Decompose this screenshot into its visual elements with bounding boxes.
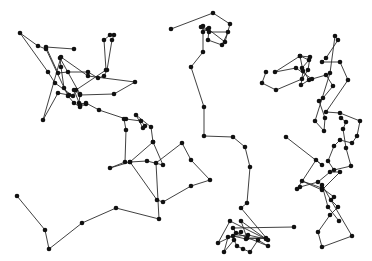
node-dot: [84, 101, 89, 106]
node-dot: [202, 105, 207, 110]
node-dot: [56, 71, 61, 76]
node-dot: [216, 241, 221, 246]
node-dot: [124, 128, 129, 133]
node-dot: [358, 119, 363, 124]
node-dot: [246, 233, 251, 238]
node-dot: [321, 96, 326, 101]
node-dot: [350, 141, 355, 146]
node-dot: [128, 160, 133, 165]
node-dot: [222, 250, 227, 255]
node-dot: [151, 140, 156, 145]
node-dot: [71, 94, 76, 99]
node-dot: [80, 221, 85, 226]
node-dot: [316, 180, 321, 185]
node-dot: [329, 198, 334, 203]
node-dot: [306, 68, 311, 73]
node-dot: [189, 184, 194, 189]
node-dot: [18, 31, 23, 36]
node-dot: [349, 164, 354, 169]
node-dot: [62, 86, 67, 91]
node-dot: [316, 230, 321, 235]
node-dot: [324, 56, 329, 61]
node-dot: [337, 219, 342, 224]
node-dot: [231, 226, 236, 231]
node-dot: [66, 70, 71, 75]
path-edges: [20, 33, 153, 168]
node-dot: [234, 231, 239, 236]
node-dot: [112, 92, 117, 97]
node-dot: [338, 138, 343, 143]
path-right-lower: [284, 135, 355, 250]
node-dot: [344, 120, 349, 125]
node-dot: [189, 158, 194, 163]
node-dot: [235, 244, 240, 249]
node-dot: [169, 27, 174, 32]
node-dot: [298, 185, 303, 190]
node-dot: [317, 99, 322, 104]
node-dot: [326, 205, 331, 210]
node-dot: [333, 34, 338, 39]
node-dot: [241, 247, 246, 252]
node-dot: [41, 118, 46, 123]
node-dot: [264, 70, 269, 75]
node-dot: [149, 125, 154, 130]
node-dot: [320, 60, 325, 65]
node-dot: [226, 235, 231, 240]
node-dot: [300, 77, 305, 82]
node-dot: [310, 77, 315, 82]
node-dot: [123, 160, 128, 165]
node-dot: [96, 76, 101, 81]
node-dot: [336, 205, 341, 210]
node-dot: [201, 24, 206, 29]
node-dot: [338, 170, 343, 175]
node-dot: [134, 113, 139, 118]
node-dot: [161, 163, 166, 168]
node-dot: [112, 33, 117, 38]
node-dot: [201, 30, 206, 35]
node-dot: [59, 65, 64, 70]
node-dot: [294, 66, 299, 71]
node-dot: [284, 135, 289, 140]
node-dot: [322, 129, 327, 134]
node-dot: [53, 81, 58, 86]
node-dot: [298, 54, 303, 59]
node-dot: [102, 38, 107, 43]
node-dot: [59, 55, 64, 60]
node-dot: [157, 217, 162, 222]
node-dot: [220, 43, 225, 48]
path-edges: [17, 142, 210, 249]
path-right-cluster: [260, 34, 363, 173]
node-dot: [328, 170, 333, 175]
node-dot: [243, 145, 248, 150]
node-dot: [189, 65, 194, 70]
node-dot: [314, 158, 319, 163]
node-dot: [331, 84, 336, 89]
node-dot: [114, 206, 119, 211]
node-dot: [307, 58, 312, 63]
node-dot: [336, 38, 341, 43]
node-dot: [202, 134, 207, 139]
node-dot: [339, 116, 344, 121]
node-dot: [338, 111, 343, 116]
node-dot: [108, 166, 113, 171]
node-dot: [231, 135, 236, 140]
node-dot: [161, 200, 166, 205]
node-dot: [264, 237, 269, 242]
node-dot: [211, 11, 216, 16]
node-dot: [248, 165, 253, 170]
node-dot: [102, 74, 107, 79]
node-dot: [344, 146, 349, 151]
node-dot: [323, 116, 328, 121]
node-dot: [292, 225, 297, 230]
node-dot: [299, 83, 304, 88]
node-dot: [139, 119, 144, 124]
node-dot: [273, 70, 278, 75]
node-dot: [266, 244, 271, 249]
node-dot: [44, 47, 49, 52]
node-dot: [110, 38, 115, 43]
node-dot: [228, 22, 233, 27]
node-dot: [313, 119, 318, 124]
node-dot: [206, 38, 211, 43]
node-dot: [232, 238, 237, 243]
node-dot: [320, 163, 325, 168]
